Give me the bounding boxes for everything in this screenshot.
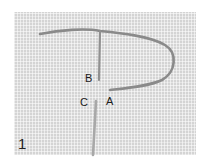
embroidery-thread-illustration: [0, 0, 206, 166]
thread-loop: [40, 30, 174, 90]
needle-shaft: [93, 101, 96, 155]
thread-vertical-to-b: [99, 31, 100, 80]
step-number: 1: [18, 136, 26, 151]
label-b: B: [85, 73, 92, 84]
label-c: C: [80, 97, 88, 108]
label-a: A: [106, 96, 113, 107]
